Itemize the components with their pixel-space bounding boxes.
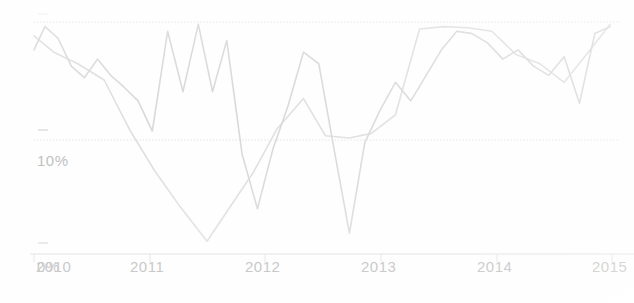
chart-plot-area bbox=[0, 0, 634, 303]
x-axis-label-2014: 2014 bbox=[477, 258, 512, 275]
gridlines bbox=[34, 22, 620, 140]
chart-container: 10% 0% 2010 2011 2012 2013 2014 2015 bbox=[0, 0, 634, 303]
x-axis-label-2012: 2012 bbox=[245, 258, 280, 275]
y-axis-ticks bbox=[38, 14, 48, 243]
x-axis-label-2011: 2011 bbox=[130, 258, 164, 275]
x-axis-label-2010: 2010 bbox=[36, 258, 71, 275]
data-series-group bbox=[34, 24, 610, 241]
y-axis-label-10pct: 10% bbox=[37, 152, 69, 169]
x-axis-label-2013: 2013 bbox=[361, 258, 396, 275]
x-axis-label-2015: 2015 bbox=[592, 258, 627, 275]
x-axis bbox=[30, 254, 634, 262]
